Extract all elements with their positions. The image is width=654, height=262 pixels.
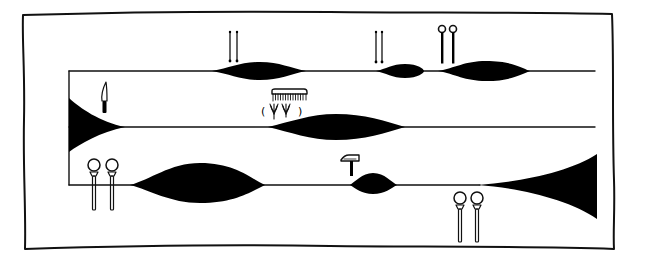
graphic-score: Graphic score with three staves of swell… bbox=[0, 0, 654, 262]
knife-icon bbox=[102, 82, 107, 113]
knitting-needles-icon bbox=[229, 31, 239, 63]
swell-shape-top-1 bbox=[212, 62, 306, 80]
knitting-needles-icon bbox=[375, 31, 384, 64]
comb-icon bbox=[272, 89, 307, 101]
grass-stalks-icon: ( ) bbox=[261, 104, 302, 119]
swell-shape-bottom-2 bbox=[350, 173, 397, 194]
hammer-icon bbox=[341, 155, 359, 176]
swell-shape-top-3 bbox=[438, 61, 530, 81]
ring-pins-icon bbox=[439, 26, 457, 64]
swell-shape-middle bbox=[268, 114, 405, 140]
mallets-icon bbox=[454, 192, 483, 242]
crescendo-wedge-bottom bbox=[478, 154, 597, 219]
close-paren: ) bbox=[298, 105, 302, 118]
decrescendo-wedge-middle bbox=[69, 98, 125, 152]
swell-shape-bottom-1 bbox=[130, 163, 265, 203]
open-paren: ( bbox=[261, 105, 265, 118]
score-canvas: ( ) bbox=[0, 0, 654, 262]
swell-shape-top-2 bbox=[376, 64, 424, 78]
